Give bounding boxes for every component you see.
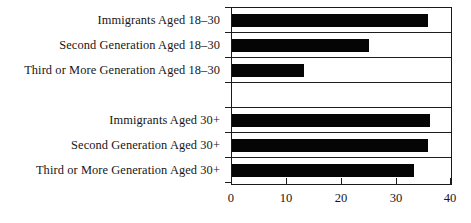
x-axis-label-40: 40 [430, 191, 470, 205]
bar-immigrants-30plus [232, 114, 430, 127]
row-separator [232, 157, 451, 158]
category-label-immigrants-30plus: Immigrants Aged 30+ [0, 114, 220, 127]
bar-third-or-more-30plus [232, 164, 414, 177]
bar-second-gen-18-30 [232, 39, 369, 52]
x-axis-label-20: 20 [321, 191, 361, 205]
category-label-third-or-more-18-30: Third or More Generation Aged 18–30 [0, 64, 220, 77]
x-axis-tick-30 [396, 178, 397, 184]
clipped-caption [6, 216, 465, 223]
category-label-third-or-more-30plus: Third or More Generation Aged 30+ [0, 164, 220, 177]
x-axis-tick-10 [286, 178, 287, 184]
bar-third-or-more-18-30 [232, 64, 304, 77]
x-axis-label-0: 0 [211, 191, 251, 205]
plot-area [231, 7, 452, 185]
x-axis-label-10: 10 [266, 191, 306, 205]
row-separator [232, 57, 451, 58]
category-label-immigrants-18-30: Immigrants Aged 18–30 [0, 14, 220, 27]
x-axis-tick-0 [231, 178, 232, 184]
horizontal-bar-chart: Immigrants Aged 18–30 Second Generation … [0, 0, 471, 223]
category-label-second-gen-18-30: Second Generation Aged 18–30 [0, 39, 220, 52]
row-separator [232, 132, 451, 133]
category-label-column: Immigrants Aged 18–30 Second Generation … [0, 5, 226, 183]
row-separator [232, 82, 451, 83]
x-axis-tick-40 [450, 178, 451, 184]
bar-immigrants-18-30 [232, 14, 428, 27]
row-separator [232, 107, 451, 108]
category-label-second-gen-30plus: Second Generation Aged 30+ [0, 139, 220, 152]
bar-second-gen-30plus [232, 139, 428, 152]
row-separator [232, 32, 451, 33]
x-axis-tick-20 [341, 178, 342, 184]
x-axis-label-30: 30 [376, 191, 416, 205]
